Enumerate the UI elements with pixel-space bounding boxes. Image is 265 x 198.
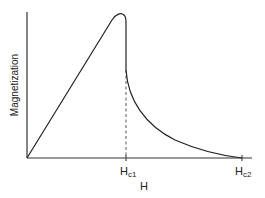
hc1-label: Hc1 bbox=[120, 165, 137, 179]
magnetization-chart: Magnetization Hc1 Hc2 H bbox=[0, 0, 265, 198]
y-axis-label: Magnetization bbox=[9, 54, 20, 116]
x-axis-label: H bbox=[140, 180, 148, 192]
hc2-label: Hc2 bbox=[235, 165, 252, 179]
magnetization-curve bbox=[27, 14, 242, 158]
